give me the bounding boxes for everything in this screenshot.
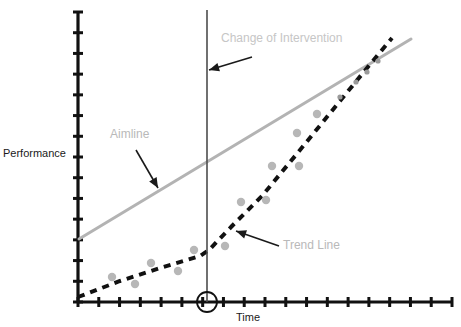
data-point [108,273,116,281]
chart-canvas [0,0,461,327]
data-point [375,58,380,63]
aimline-annotation-label: Aimline [110,127,149,141]
data-point [237,198,245,206]
trendline [78,38,392,297]
data-point [221,242,229,250]
data-point [353,79,358,84]
x-axis-title: Time [236,311,260,323]
data-point [295,162,303,170]
annotation-arrow-head [236,230,247,238]
data-point [190,246,198,254]
change-of-intervention-annotation-label: Change of Intervention [221,31,342,45]
data-point [131,280,139,288]
data-point [262,196,270,204]
axes-group [73,12,452,307]
annotation-arrow-head [149,177,158,188]
trendline-series [78,38,392,297]
trendline-annotation-label: Trend Line [283,238,340,252]
change-of-intervention-line [197,10,217,312]
data-point [364,69,369,74]
chart-figure: Performance Time Aimline Trend Line Chan… [0,0,461,327]
data-point [337,94,342,99]
data-point [174,267,182,275]
data-point [293,129,301,137]
annotation-arrow-head [209,63,220,71]
data-point [268,162,276,170]
data-point [313,110,321,118]
data-point [147,259,155,267]
y-axis-title: Performance [3,147,66,159]
